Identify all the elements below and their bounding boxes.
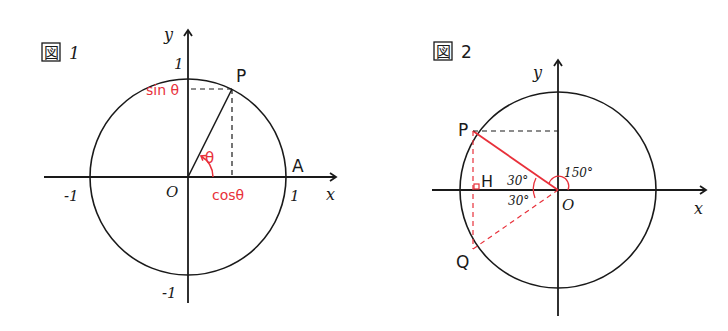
sin-theta-label: sin θ <box>146 82 179 98</box>
right-angle-icon <box>474 184 479 189</box>
origin-label: O <box>562 196 574 214</box>
angle-150-label: 150° <box>564 166 593 180</box>
point-p-label: P <box>236 66 246 86</box>
tick-x-1: 1 <box>290 187 300 205</box>
x-axis-label: x <box>694 199 703 218</box>
theta-label: θ <box>205 149 214 167</box>
point-a-label: A <box>292 156 304 176</box>
point-q-label: Q <box>456 252 469 272</box>
tick-y-1: 1 <box>174 55 184 73</box>
point-p-label: P <box>458 120 468 140</box>
origin-label: O <box>166 183 178 201</box>
figure-1-title: 図 1 <box>42 43 80 63</box>
title-kanji: 図 <box>436 43 451 61</box>
diagram-canvas: 図 1 y x 1 -1 -1 1 O P A θ sin θ cosθ <box>0 0 728 331</box>
y-axis-label: y <box>163 25 174 44</box>
title-number: 1 <box>69 43 80 63</box>
angle-30-upper-label: 30° <box>507 174 528 188</box>
x-axis-label: x <box>326 185 335 204</box>
figure-2: 図 2 y x O P Q H 30° 30° 150° <box>432 42 706 316</box>
angle-30-lower-label: 30° <box>508 194 529 208</box>
title-kanji: 図 <box>44 44 59 62</box>
cos-theta-label: cosθ <box>212 187 244 203</box>
tick-y-neg1: -1 <box>162 284 177 302</box>
title-number: 2 <box>461 42 472 62</box>
angle-arc-30-icon <box>533 178 536 198</box>
figure-1: 図 1 y x 1 -1 -1 1 O P A θ sin θ cosθ <box>42 25 336 303</box>
y-axis-label: y <box>532 63 543 82</box>
tick-x-neg1: -1 <box>64 187 79 205</box>
figure-2-title: 図 2 <box>434 42 472 62</box>
point-h-label: H <box>481 172 493 191</box>
